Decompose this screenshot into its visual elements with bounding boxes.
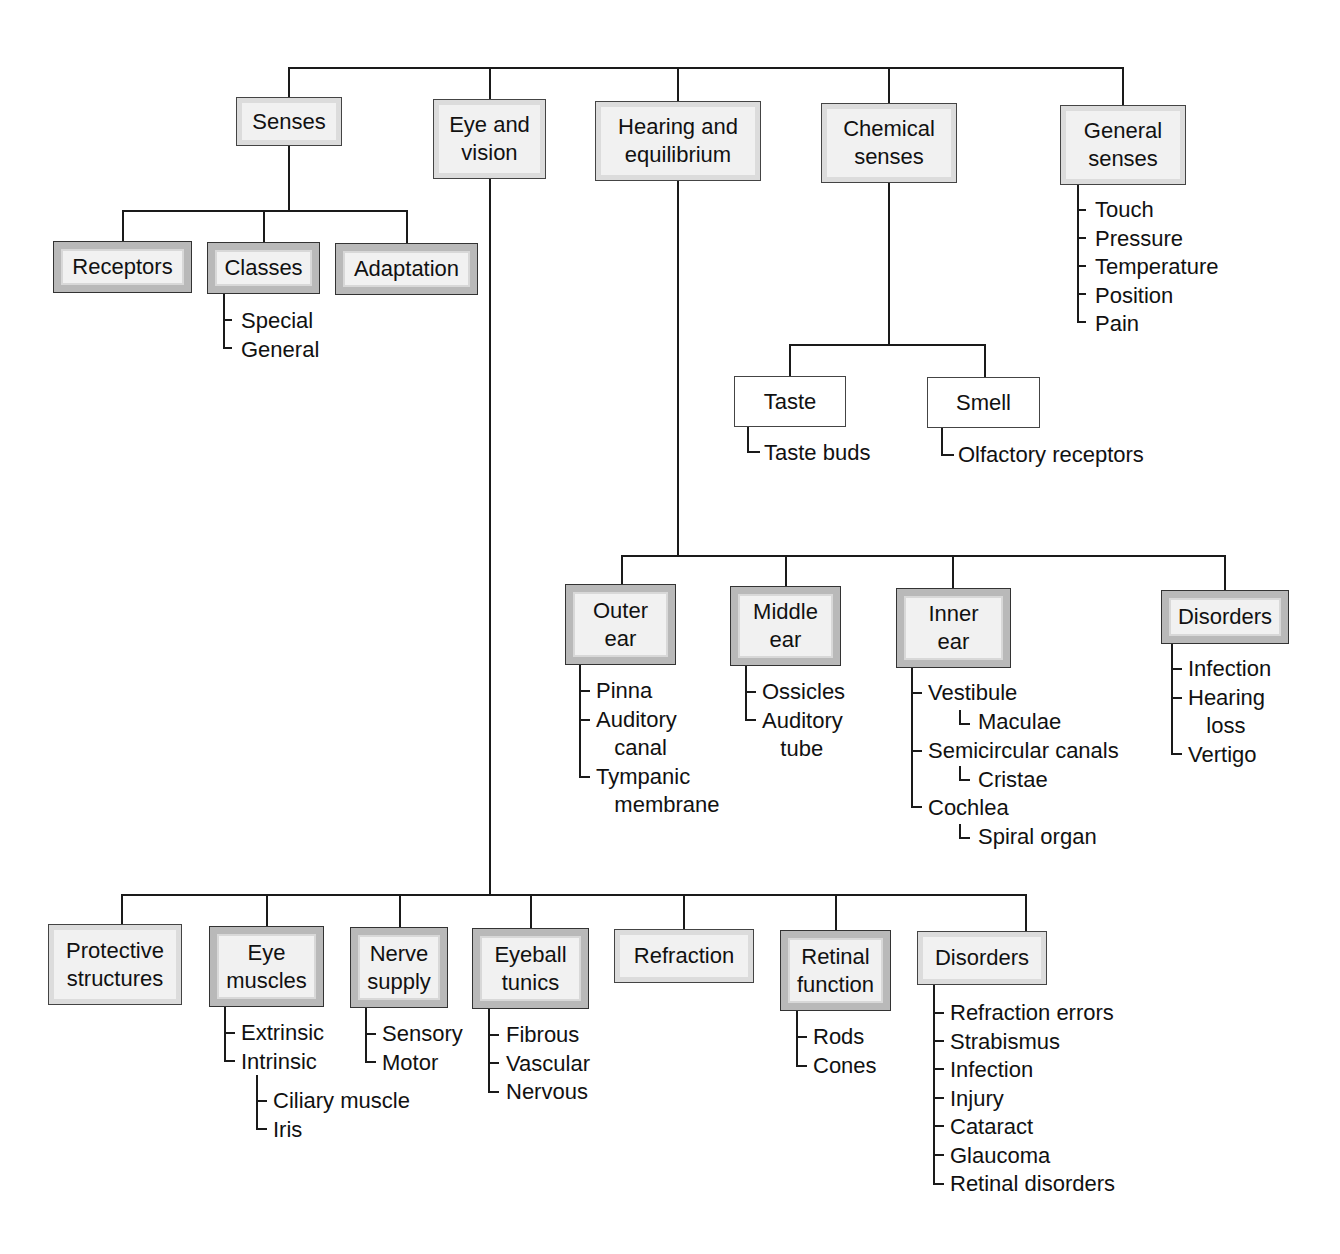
list-item: Motor [382,1049,438,1077]
list-item: Extrinsic [241,1019,324,1047]
box-ear-disorders: Disorders [1161,590,1289,644]
list-item: Touch [1095,196,1154,224]
list-subitem: Iris [273,1116,302,1144]
list-item: Pinna [596,677,652,705]
list-item: General [241,336,319,364]
list-subitem: Spiral organ [978,823,1097,851]
box-receptors: Receptors [53,241,192,293]
box-taste: Taste [734,376,846,427]
list-subitem: Maculae [978,708,1061,736]
list-item: Vascular [506,1050,590,1078]
list-item: Fibrous [506,1021,579,1049]
list-item: Vertigo [1188,741,1257,769]
box-retinal-function: Retinal function [780,930,891,1011]
list-item: Cones [813,1052,877,1080]
box-middle-ear: Middle ear [730,586,841,666]
list-item: Vestibule [928,679,1017,707]
list-item: Ossicles [762,678,845,706]
list-item: Pressure [1095,225,1183,253]
list-item: Hearing loss [1188,684,1265,740]
box-senses: Senses [236,97,342,146]
box-smell: Smell [927,377,1040,428]
list-item: Strabismus [950,1028,1060,1056]
list-item: Auditory canal [596,706,677,762]
list-item: Intrinsic [241,1048,317,1076]
list-item: Cochlea [928,794,1009,822]
list-item: Special [241,307,313,335]
box-inner-ear: Inner ear [896,588,1011,668]
list-item: Taste buds [764,439,870,467]
list-item: Sensory [382,1020,463,1048]
box-nerve-supply: Nerve supply [350,927,448,1008]
list-item: Olfactory receptors [958,441,1144,469]
list-item: Auditory tube [762,707,843,763]
list-item: Injury [950,1085,1004,1113]
list-item: Nervous [506,1078,588,1106]
list-item: Tympanic membrane [596,763,720,819]
box-hearing: Hearing and equilibrium [595,101,761,181]
list-item: Infection [1188,655,1271,683]
list-item: Cataract [950,1113,1033,1141]
list-item: Position [1095,282,1173,310]
list-item: Refraction errors [950,999,1114,1027]
box-general: General senses [1060,105,1186,185]
box-outer-ear: Outer ear [565,584,676,665]
box-adaptation: Adaptation [335,243,478,295]
list-item: Retinal disorders [950,1170,1115,1198]
box-eye-vision: Eye and vision [433,99,546,179]
list-item: Semicircular canals [928,737,1119,765]
box-eye-muscles: Eye muscles [209,926,324,1007]
box-eyeball-tunics: Eyeball tunics [472,928,589,1009]
box-eye-disorders: Disorders [917,931,1047,985]
list-item: Rods [813,1023,864,1051]
box-protective: Protective structures [48,924,182,1005]
list-item: Pain [1095,310,1139,338]
list-item: Temperature [1095,253,1219,281]
list-item: Infection [950,1056,1033,1084]
box-refraction: Refraction [614,929,754,983]
list-subitem: Cristae [978,766,1048,794]
list-item: Glaucoma [950,1142,1050,1170]
list-subitem: Ciliary muscle [273,1087,410,1115]
box-classes: Classes [207,242,320,294]
box-chemical: Chemical senses [821,103,957,183]
